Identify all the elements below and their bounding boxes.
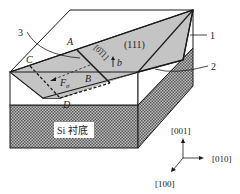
axis-100-line xyxy=(173,158,183,170)
axis-100-label: [100] xyxy=(155,179,175,189)
callout-3: 3 xyxy=(18,27,23,38)
point-b-label: B xyxy=(85,73,91,84)
axis-001-arrowhead xyxy=(181,138,185,143)
point-c-label: C xyxy=(26,54,33,65)
point-a-label: A xyxy=(66,36,74,47)
axis-010-label: [010] xyxy=(212,154,232,164)
substrate-label: Si 衬底 xyxy=(57,124,88,136)
axis-010-arrowhead xyxy=(199,156,204,160)
epitaxial-film-dislocation-diagram: 3 1 2 A B C D (111) [0̅1̅1] b Fσ Si 衬底 [… xyxy=(0,0,240,194)
callout-2: 2 xyxy=(211,61,216,72)
point-d-label: D xyxy=(62,99,71,110)
callout-1: 1 xyxy=(210,30,215,41)
plane-label: (111) xyxy=(124,39,145,51)
axis-001-label: [001] xyxy=(171,126,191,136)
burgers-vector-label: b xyxy=(117,57,122,68)
